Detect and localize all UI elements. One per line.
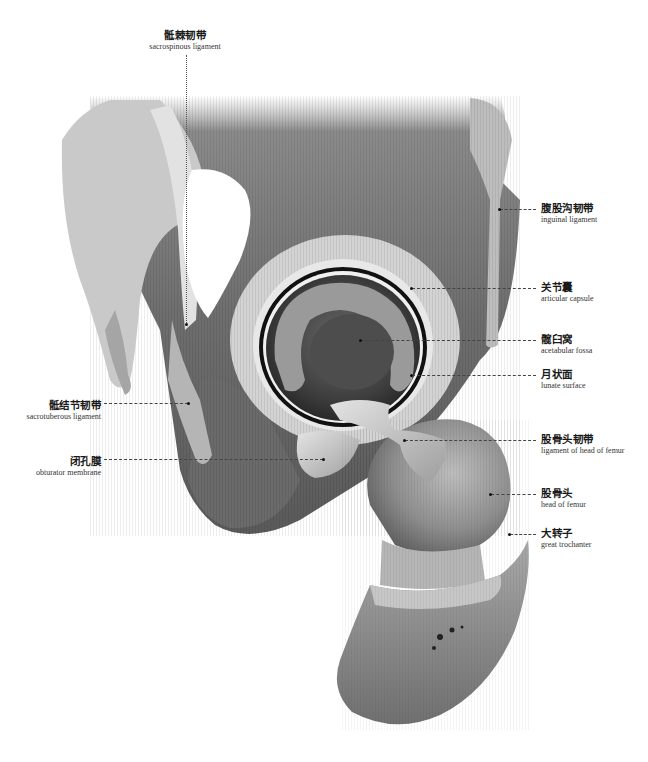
pointer-dot	[410, 287, 413, 290]
pointer-dot	[359, 339, 362, 342]
label-head-of-femur: 股骨头 head of femur	[541, 488, 586, 509]
leader-inguinal	[500, 209, 536, 210]
pointer-dot	[322, 458, 325, 461]
leader-trochanter	[510, 534, 536, 535]
label-lunate-surface: 月状面 lunate surface	[541, 369, 586, 390]
leader-lig-head	[405, 440, 536, 441]
label-articular-capsule: 关节囊 articular capsule	[541, 282, 594, 303]
pointer-dot	[498, 208, 501, 211]
pointer-dot	[185, 323, 188, 326]
pointer-dot	[489, 493, 492, 496]
label-acetabular-fossa: 髋臼窝 acetabular fossa	[541, 334, 592, 355]
pointer-dot	[403, 439, 406, 442]
label-inguinal-ligament: 腹股沟韧带 inguinal ligament	[541, 203, 597, 224]
leader-obturator	[104, 459, 323, 460]
label-sacrospinous-ligament: 骶棘韧带 sacrospinous ligament	[120, 30, 250, 51]
label-great-trochanter: 大转子 great trochanter	[541, 528, 591, 549]
pointer-dot	[410, 374, 413, 377]
leader-sacrotuberous	[104, 403, 188, 404]
label-obturator-membrane: 闭孔膜 obturator membrane	[0, 456, 101, 477]
leader-lunate	[412, 375, 536, 376]
leader-fossa	[361, 340, 536, 341]
leader-head	[491, 494, 536, 495]
pointer-dot	[508, 533, 511, 536]
leader-sacrospinous	[186, 55, 187, 325]
pointer-dot	[187, 402, 190, 405]
anatomy-figure: 骶棘韧带 sacrospinous ligament 腹股沟韧带 inguina…	[0, 0, 648, 762]
label-sacrotuberous-ligament: 骶结节韧带 sacrotuberous ligament	[0, 400, 101, 421]
leader-capsule	[412, 288, 536, 289]
label-ligament-of-head-of-femur: 股骨头韧带 ligament of head of femur	[541, 434, 625, 455]
